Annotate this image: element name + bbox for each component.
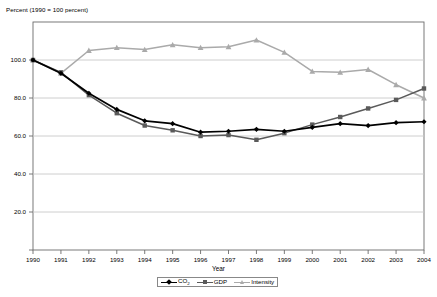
legend-item-intensity: Intensity bbox=[234, 279, 274, 286]
legend-item-gdp: GDP bbox=[197, 279, 227, 286]
plot-area bbox=[0, 0, 437, 297]
x-tick-label: 2000 bbox=[297, 256, 327, 263]
x-tick-label: 1996 bbox=[186, 256, 216, 263]
x-tick-label: 2002 bbox=[353, 256, 383, 263]
legend-label: CO2 bbox=[178, 278, 190, 287]
x-tick-label: 2003 bbox=[381, 256, 411, 263]
x-tick-label: 1993 bbox=[102, 256, 132, 263]
x-tick-label: 1994 bbox=[130, 256, 160, 263]
data-point-marker bbox=[422, 86, 426, 90]
y-tick-label: 80.0 bbox=[0, 94, 26, 101]
x-tick-label: 1999 bbox=[269, 256, 299, 263]
x-tick-label: 1997 bbox=[214, 256, 244, 263]
chart-legend: CO2GDPIntensity bbox=[157, 277, 278, 287]
square-marker-icon bbox=[197, 279, 213, 286]
x-tick-label: 1990 bbox=[18, 256, 48, 263]
x-axis-title: Year bbox=[0, 265, 437, 272]
diamond-marker-icon bbox=[161, 279, 177, 286]
data-point-marker bbox=[338, 115, 342, 119]
chart-container: Percent (1990 = 100 percent) 20.040.060.… bbox=[0, 0, 437, 297]
legend-item-co2: CO2 bbox=[161, 278, 190, 287]
x-tick-label: 1991 bbox=[46, 256, 76, 263]
y-tick-label: 60.0 bbox=[0, 132, 26, 139]
y-tick-label: 20.0 bbox=[0, 208, 26, 215]
x-tick-label: 1992 bbox=[74, 256, 104, 263]
y-tick-label: 100.0 bbox=[0, 56, 26, 63]
y-tick-label: 40.0 bbox=[0, 170, 26, 177]
legend-label: Intensity bbox=[251, 279, 274, 285]
data-point-marker bbox=[143, 123, 147, 127]
data-point-marker bbox=[394, 98, 398, 102]
legend-label: GDP bbox=[214, 279, 227, 285]
x-tick-label: 1998 bbox=[241, 256, 271, 263]
triangle-marker-icon bbox=[234, 279, 250, 286]
data-point-marker bbox=[254, 138, 258, 142]
data-point-marker bbox=[170, 128, 174, 132]
x-tick-label: 2001 bbox=[325, 256, 355, 263]
x-tick-label: 1995 bbox=[158, 256, 188, 263]
x-tick-label: 2004 bbox=[409, 256, 437, 263]
data-point-marker bbox=[366, 106, 370, 110]
